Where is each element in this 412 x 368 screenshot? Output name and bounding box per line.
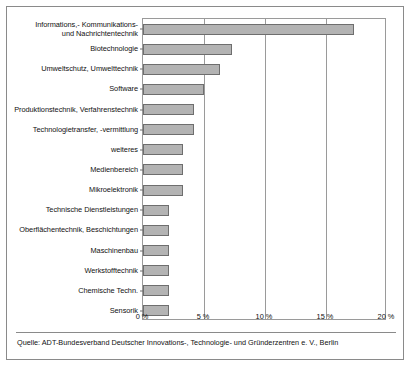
source-separator — [16, 332, 396, 333]
x-tick-label: 0 % — [136, 312, 149, 321]
chart-area: Informations,- Kommunikations-und Nachri… — [7, 7, 405, 332]
x-tick-label: 10 % — [256, 312, 273, 321]
x-tick-label: 20 % — [378, 312, 395, 321]
figure-frame: Informations,- Kommunikations-und Nachri… — [6, 6, 404, 360]
source-note: Quelle: ADT-Bundesverband Deutscher Inno… — [17, 338, 397, 348]
x-tick-label: 5 % — [197, 312, 210, 321]
x-axis-ticks: 0 %5 %10 %15 %20 % — [7, 7, 405, 332]
x-tick-label: 15 % — [317, 312, 334, 321]
